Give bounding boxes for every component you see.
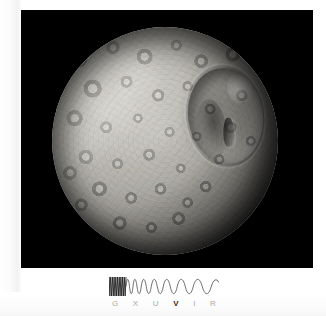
spectrum-waveform xyxy=(126,279,219,293)
spectrum-band-g: G xyxy=(112,298,118,309)
spectrum-band-labels: G X U V I R xyxy=(109,298,219,309)
mimas-disc xyxy=(52,27,278,255)
limb-darkening xyxy=(52,27,278,255)
mimas-photo xyxy=(21,10,313,268)
page-edge-shading-left xyxy=(0,0,22,316)
spectrum-gamma-block xyxy=(109,277,126,296)
spectrum-band-x: X xyxy=(133,298,139,309)
spectrum-indicator: G X U V I R xyxy=(109,276,219,312)
spectrum-wave-icon xyxy=(109,276,219,297)
spectrum-band-r: R xyxy=(210,298,216,309)
spectrum-band-i: I xyxy=(193,298,195,309)
spectrum-band-u: U xyxy=(153,298,159,309)
spectrum-band-v: V xyxy=(173,298,179,309)
moon-disc-wrapper xyxy=(52,27,278,255)
page-root: G X U V I R xyxy=(0,0,326,316)
